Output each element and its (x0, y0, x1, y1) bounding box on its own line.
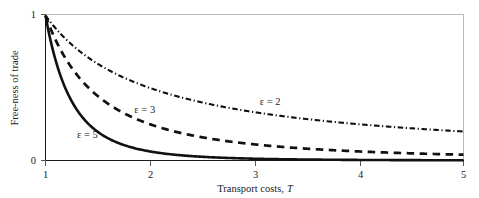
chart-figure: 1 2 3 4 5 1 0 Free-ness of trade Transpo… (0, 0, 479, 198)
y-tick-label-top: 1 (31, 9, 36, 20)
x-tick-label-5: 5 (461, 169, 466, 180)
x-tick-label-2: 2 (148, 169, 153, 180)
x-tick-label-1: 1 (43, 169, 48, 180)
y-axis-title: Free-ness of trade (9, 50, 20, 126)
x-axis-title-text: Transport costs, (217, 183, 284, 194)
x-tick-label-4: 4 (358, 169, 364, 180)
curve-epsilon-2 (46, 16, 464, 132)
x-tick-label-3: 3 (253, 169, 258, 180)
annotation-epsilon-3: ε = 3 (134, 104, 155, 115)
y-tick-label-bottom: 0 (31, 155, 36, 166)
free-ness-of-trade-chart: 1 2 3 4 5 1 0 Free-ness of trade Transpo… (0, 0, 479, 198)
curve-epsilon-5 (46, 16, 464, 161)
x-axis-title: Transport costs,T (217, 183, 294, 194)
annotation-epsilon-5: ε = 5 (77, 129, 98, 140)
annotation-epsilon-2: ε = 2 (260, 96, 281, 107)
curve-epsilon-3 (46, 16, 464, 155)
x-axis-title-symbol: T (287, 183, 294, 194)
